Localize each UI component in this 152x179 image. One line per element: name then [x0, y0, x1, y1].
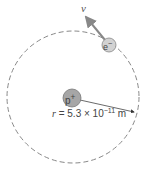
electron-label: e−: [103, 39, 112, 52]
atom-diagram: [0, 0, 152, 179]
velocity-arrow: [86, 17, 105, 40]
radius-label: r = 5.3 × 10−11 m: [52, 107, 126, 119]
proton-label: p+: [65, 92, 75, 106]
velocity-label: v: [81, 2, 86, 14]
